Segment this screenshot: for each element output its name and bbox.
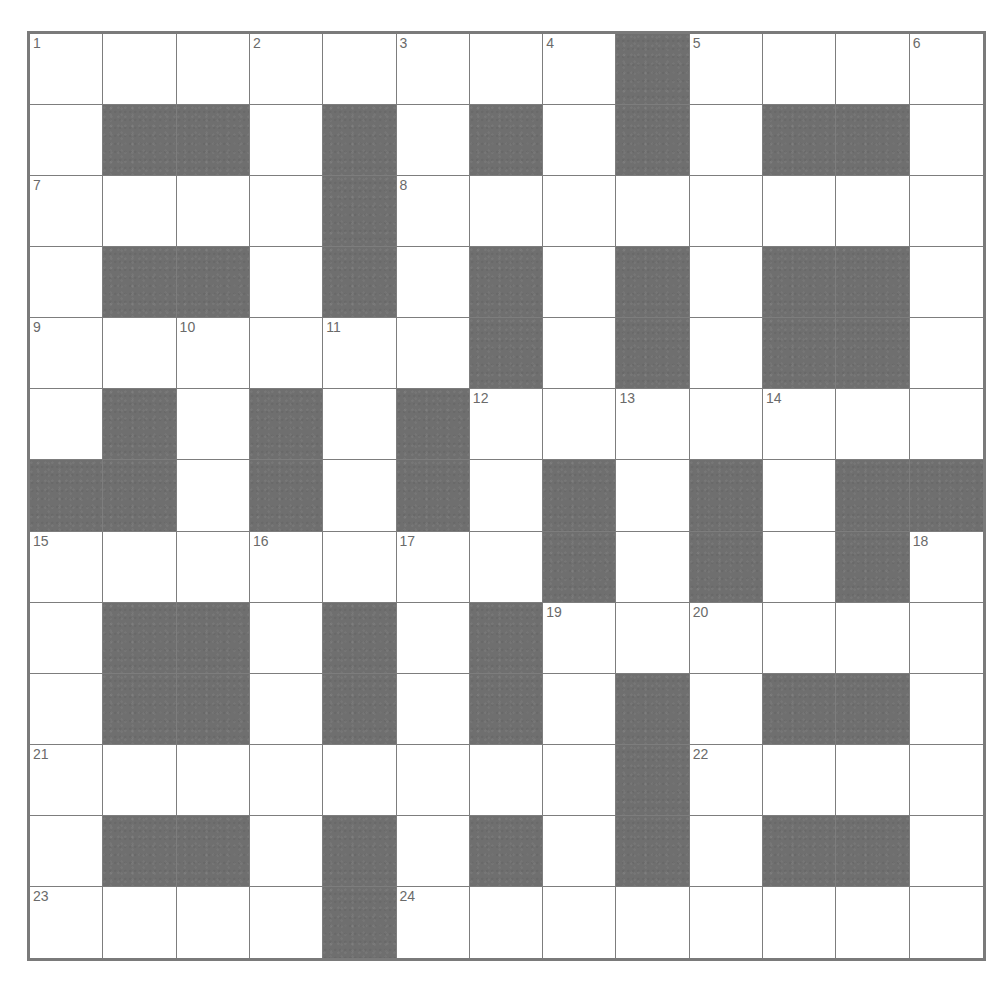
crossword-cell[interactable]	[470, 34, 543, 105]
crossword-cell[interactable]	[763, 887, 836, 958]
crossword-cell[interactable]	[910, 318, 983, 389]
crossword-cell[interactable]	[250, 887, 323, 958]
crossword-cell[interactable]	[836, 887, 909, 958]
crossword-cell[interactable]: 12	[470, 389, 543, 460]
crossword-cell[interactable]	[690, 176, 763, 247]
crossword-cell[interactable]: 7	[30, 176, 103, 247]
crossword-cell[interactable]	[543, 318, 616, 389]
crossword-cell[interactable]	[690, 389, 763, 460]
crossword-cell[interactable]	[323, 460, 396, 531]
crossword-cell[interactable]	[543, 247, 616, 318]
crossword-cell[interactable]	[836, 745, 909, 816]
crossword-cell[interactable]	[910, 745, 983, 816]
crossword-cell[interactable]	[397, 816, 470, 887]
crossword-cell[interactable]	[616, 532, 689, 603]
crossword-cell[interactable]	[763, 34, 836, 105]
crossword-cell[interactable]	[616, 603, 689, 674]
crossword-cell[interactable]	[910, 247, 983, 318]
crossword-cell[interactable]: 23	[30, 887, 103, 958]
crossword-cell[interactable]	[30, 105, 103, 176]
crossword-cell[interactable]	[250, 176, 323, 247]
crossword-cell[interactable]	[910, 389, 983, 460]
crossword-cell[interactable]: 4	[543, 34, 616, 105]
crossword-cell[interactable]	[836, 34, 909, 105]
crossword-cell[interactable]: 2	[250, 34, 323, 105]
crossword-cell[interactable]	[177, 745, 250, 816]
crossword-cell[interactable]	[30, 816, 103, 887]
crossword-cell[interactable]	[543, 105, 616, 176]
crossword-cell[interactable]	[763, 745, 836, 816]
crossword-cell[interactable]	[690, 816, 763, 887]
crossword-cell[interactable]: 5	[690, 34, 763, 105]
crossword-cell[interactable]	[763, 532, 836, 603]
crossword-cell[interactable]	[690, 674, 763, 745]
crossword-cell[interactable]	[470, 887, 543, 958]
crossword-cell[interactable]	[177, 532, 250, 603]
crossword-cell[interactable]: 3	[397, 34, 470, 105]
crossword-cell[interactable]: 16	[250, 532, 323, 603]
crossword-cell[interactable]	[103, 745, 176, 816]
crossword-cell[interactable]	[543, 674, 616, 745]
crossword-cell[interactable]	[836, 603, 909, 674]
crossword-cell[interactable]	[30, 247, 103, 318]
crossword-cell[interactable]	[323, 745, 396, 816]
crossword-cell[interactable]	[177, 34, 250, 105]
crossword-cell[interactable]	[177, 887, 250, 958]
crossword-cell[interactable]	[836, 389, 909, 460]
crossword-cell[interactable]	[323, 34, 396, 105]
crossword-cell[interactable]	[690, 247, 763, 318]
crossword-cell[interactable]	[250, 603, 323, 674]
crossword-cell[interactable]: 24	[397, 887, 470, 958]
crossword-cell[interactable]	[30, 603, 103, 674]
crossword-cell[interactable]	[323, 532, 396, 603]
crossword-cell[interactable]	[397, 674, 470, 745]
crossword-cell[interactable]: 18	[910, 532, 983, 603]
crossword-cell[interactable]	[30, 389, 103, 460]
crossword-cell[interactable]	[177, 389, 250, 460]
crossword-cell[interactable]	[250, 674, 323, 745]
crossword-cell[interactable]	[910, 603, 983, 674]
crossword-cell[interactable]: 21	[30, 745, 103, 816]
crossword-cell[interactable]	[103, 532, 176, 603]
crossword-cell[interactable]	[910, 105, 983, 176]
crossword-cell[interactable]	[836, 176, 909, 247]
crossword-cell[interactable]	[470, 532, 543, 603]
crossword-cell[interactable]	[397, 603, 470, 674]
crossword-cell[interactable]	[323, 389, 396, 460]
crossword-cell[interactable]	[690, 887, 763, 958]
crossword-cell[interactable]: 10	[177, 318, 250, 389]
crossword-cell[interactable]	[30, 674, 103, 745]
crossword-cell[interactable]	[616, 176, 689, 247]
crossword-cell[interactable]	[470, 176, 543, 247]
crossword-cell[interactable]	[763, 603, 836, 674]
crossword-cell[interactable]	[250, 318, 323, 389]
crossword-cell[interactable]	[103, 887, 176, 958]
crossword-cell[interactable]: 19	[543, 603, 616, 674]
crossword-cell[interactable]	[616, 460, 689, 531]
crossword-cell[interactable]	[397, 745, 470, 816]
crossword-cell[interactable]	[543, 887, 616, 958]
crossword-cell[interactable]: 15	[30, 532, 103, 603]
crossword-cell[interactable]	[397, 105, 470, 176]
crossword-cell[interactable]	[397, 247, 470, 318]
crossword-cell[interactable]	[690, 105, 763, 176]
crossword-cell[interactable]	[103, 34, 176, 105]
crossword-cell[interactable]	[250, 247, 323, 318]
crossword-cell[interactable]	[690, 318, 763, 389]
crossword-cell[interactable]: 22	[690, 745, 763, 816]
crossword-cell[interactable]	[397, 318, 470, 389]
crossword-cell[interactable]: 8	[397, 176, 470, 247]
crossword-cell[interactable]	[177, 460, 250, 531]
crossword-cell[interactable]	[103, 176, 176, 247]
crossword-cell[interactable]	[250, 105, 323, 176]
crossword-cell[interactable]: 11	[323, 318, 396, 389]
crossword-cell[interactable]	[763, 460, 836, 531]
crossword-cell[interactable]	[616, 887, 689, 958]
crossword-cell[interactable]: 17	[397, 532, 470, 603]
crossword-cell[interactable]	[470, 745, 543, 816]
crossword-cell[interactable]	[250, 745, 323, 816]
crossword-cell[interactable]	[543, 176, 616, 247]
crossword-cell[interactable]	[543, 745, 616, 816]
crossword-cell[interactable]: 14	[763, 389, 836, 460]
crossword-cell[interactable]	[910, 176, 983, 247]
